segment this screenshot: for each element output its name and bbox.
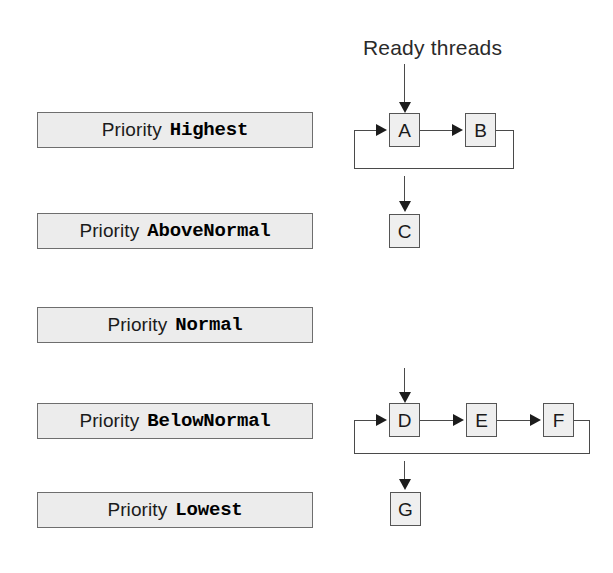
arrow-head-into-g <box>399 479 411 490</box>
feed-line-to-g <box>404 461 405 481</box>
loop-belownormal-right-leg <box>589 420 590 454</box>
priority-plate-normal-prefix: Priority <box>107 314 167 336</box>
ready-threads-caption: Ready threads <box>363 36 502 60</box>
loop-highest-bottom-leg <box>354 168 514 169</box>
arrow-head-e-to-f <box>530 414 541 426</box>
connector-d-to-e <box>420 420 455 421</box>
priority-plate-highest: Priority Highest <box>37 112 313 148</box>
loop-highest-right-leg <box>513 130 514 169</box>
loop-belownormal-left-leg <box>354 420 355 454</box>
thread-node-f: F <box>543 403 574 437</box>
thread-node-d: D <box>389 403 420 437</box>
thread-node-b: B <box>465 113 496 147</box>
priority-plate-lowest-value: Lowest <box>175 499 242 521</box>
feed-line-to-a <box>404 64 405 106</box>
priority-plate-abovenormal-prefix: Priority <box>79 220 139 242</box>
arrow-head-d-to-e <box>453 414 464 426</box>
arrow-head-into-d <box>399 392 411 403</box>
priority-plate-normal-value: Normal <box>175 314 242 336</box>
loop-highest-return <box>354 130 378 131</box>
arrow-head-loop-into-d <box>376 414 387 426</box>
connector-a-to-b <box>420 130 454 131</box>
priority-plate-lowest: Priority Lowest <box>37 492 313 528</box>
thread-node-g: G <box>390 492 421 526</box>
loop-belownormal-bottom-leg <box>354 453 590 454</box>
priority-plate-belownormal-prefix: Priority <box>79 410 139 432</box>
priority-plate-highest-prefix: Priority <box>102 119 162 141</box>
priority-plate-normal: Priority Normal <box>37 307 313 343</box>
arrow-head-a-to-b <box>452 124 463 136</box>
priority-plate-abovenormal-value: AboveNormal <box>147 220 270 242</box>
thread-priority-diagram: Ready threads Priority Highest A B Prior… <box>0 0 613 573</box>
thread-node-e: E <box>466 403 497 437</box>
arrow-head-into-a <box>399 102 411 113</box>
priority-plate-abovenormal: Priority AboveNormal <box>37 213 313 249</box>
thread-node-c: C <box>389 214 420 248</box>
thread-node-a: A <box>389 113 420 147</box>
loop-belownormal-exit <box>574 420 590 421</box>
priority-plate-belownormal-value: BelowNormal <box>147 410 270 432</box>
loop-highest-exit <box>496 130 514 131</box>
loop-belownormal-return <box>354 420 378 421</box>
priority-plate-lowest-prefix: Priority <box>107 499 167 521</box>
loop-highest-left-leg <box>354 130 355 169</box>
priority-plate-highest-value: Highest <box>170 119 248 141</box>
arrow-head-into-c <box>399 201 411 212</box>
priority-plate-belownormal: Priority BelowNormal <box>37 403 313 439</box>
connector-e-to-f <box>497 420 532 421</box>
arrow-head-loop-into-a <box>376 124 387 136</box>
